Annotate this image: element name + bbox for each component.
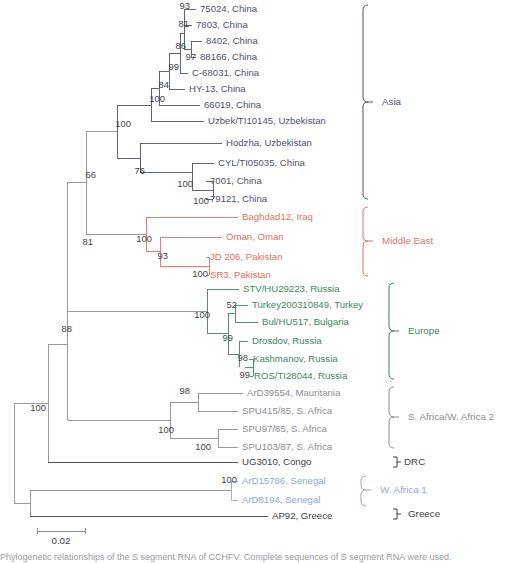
leaf-label-l28: ArD15786, Senegal — [242, 475, 326, 486]
bootstrap-76: 76 — [135, 165, 145, 176]
bootstrap-100-e: 100 — [136, 233, 152, 244]
group-label-w-africa-1: W. Africa 1 — [380, 484, 427, 495]
leaf-label-l16: SR3, Pakistan — [210, 269, 271, 280]
leaf-label-l19: Bul/HU517, Bulgaria — [262, 316, 350, 327]
leaf-label-l9: Hodzha, Uzbekistan — [226, 137, 312, 148]
leaf-label-l20: Drosdov, Russia — [252, 335, 322, 346]
group-bracket-middle-east — [363, 207, 373, 276]
group-bracket-asia — [363, 5, 373, 199]
bootstrap-99-b: 99 — [223, 332, 233, 343]
leaf-label-l6: HY-13, China — [189, 83, 246, 94]
tree-canvas: 75024, China7803, China8402, China88166,… — [0, 0, 515, 563]
bootstrap-100-b: 100 — [115, 118, 131, 129]
group-label-greece: Greece — [408, 508, 441, 519]
leaf-label-l12: 79121, China — [210, 193, 268, 204]
group-brackets-layer: AsiaMiddle EastEuropeS. Africa/W. Africa… — [361, 5, 494, 519]
group-label-europe: Europe — [408, 325, 440, 336]
bootstrap-88: 88 — [62, 323, 72, 334]
group-label-drc: DRC — [404, 456, 425, 467]
group-label-asia: Asia — [382, 96, 402, 107]
leaf-labels-layer: 75024, China7803, China8402, China88166,… — [189, 3, 363, 521]
group-bracket-s-africa-w-africa-2 — [389, 387, 399, 448]
leaf-label-l13: Baghdad12, Iraq — [242, 211, 313, 222]
leaf-label-l8: Uzbek/TI10145, Uzbekistan — [208, 115, 326, 126]
bootstrap-81-a: 81 — [179, 18, 189, 29]
bootstrap-100-h: 100 — [158, 424, 174, 435]
leaf-label-l15: JD 206, Pakistan — [210, 251, 283, 262]
bootstrap-100-i: 100 — [195, 441, 211, 452]
leaf-label-l23: ArD39554, Mauritania — [247, 387, 341, 398]
leaf-label-l25: SPU97/85, S. Africa — [242, 423, 327, 434]
bootstrap-81-b: 81 — [83, 236, 93, 247]
bootstrap-100-g: 100 — [194, 309, 210, 320]
leaf-label-l17: STV/HU29223, Russia — [243, 283, 340, 294]
bootstrap-84: 84 — [159, 79, 169, 90]
leaf-label-l26: SPU103/87, S. Africa — [242, 441, 333, 452]
bootstrap-99-c: 99 — [240, 369, 250, 380]
leaf-label-l2: 7803, China — [196, 19, 248, 30]
phylogenetic-tree-figure: 75024, China7803, China8402, China88166,… — [0, 0, 515, 563]
group-label-s-africa-w-africa-2: S. Africa/W. Africa 2 — [408, 411, 494, 422]
leaf-label-l1: 75024, China — [200, 3, 258, 14]
figure-caption: Phylogenetic relationships of the S segm… — [0, 552, 515, 563]
bootstrap-99-a: 99 — [169, 61, 179, 72]
leaf-label-l11: 7001, China — [210, 175, 262, 186]
leaf-label-l21: Kashmanov, Russia — [253, 353, 338, 364]
leaf-label-l27: UG3010, Congo — [242, 456, 311, 467]
bootstrap-98-a: 98 — [238, 352, 248, 363]
leaf-label-l7: 66019, China — [204, 99, 262, 110]
bootstrap-98-b: 98 — [180, 385, 190, 396]
leaf-label-l22: ROS/TI28044, Russia — [254, 370, 348, 381]
bootstrap-97: 97 — [186, 51, 196, 62]
group-bracket-drc — [393, 457, 401, 467]
leaf-label-l4: 88166, China — [200, 51, 258, 62]
group-bracket-w-africa-1 — [361, 476, 371, 506]
bootstrap-100-j: 100 — [30, 402, 46, 413]
scale-bar-layer: 0.02 — [37, 528, 85, 546]
leaf-label-l5: C-68031, China — [192, 67, 260, 78]
bootstrap-100-c: 100 — [177, 178, 193, 189]
leaf-label-l18: Turkey200310849, Turkey — [252, 299, 363, 310]
bootstrap-52: 52 — [227, 299, 237, 310]
leaf-label-l14: Oman, Oman — [226, 231, 284, 242]
leaf-label-l10: CYL/TI05035, China — [218, 157, 306, 168]
group-bracket-europe — [389, 283, 399, 379]
leaf-label-l30: AP92, Greece — [272, 510, 332, 521]
scale-bar-label: 0.02 — [51, 535, 70, 546]
bootstrap-66: 66 — [86, 169, 96, 180]
bootstrap-93-a: 93 — [180, 0, 190, 11]
bootstrap-100-f: 100 — [192, 268, 208, 279]
leaf-label-l29: ArD8194, Senegal — [242, 494, 320, 505]
bootstrap-100-k: 100 — [221, 474, 237, 485]
bootstrap-100-d: 100 — [193, 195, 209, 206]
bootstrap-100-a: 100 — [149, 93, 165, 104]
group-label-middle-east: Middle East — [382, 235, 433, 246]
scale-bar: 0.02 — [37, 528, 85, 546]
bootstrap-93-b: 93 — [158, 250, 168, 261]
leaf-label-l24: SPU415/85, S. Africa — [242, 405, 333, 416]
group-bracket-greece — [393, 509, 401, 519]
bootstrap-86: 86 — [176, 40, 186, 51]
leaf-label-l3: 8402, China — [206, 35, 258, 46]
